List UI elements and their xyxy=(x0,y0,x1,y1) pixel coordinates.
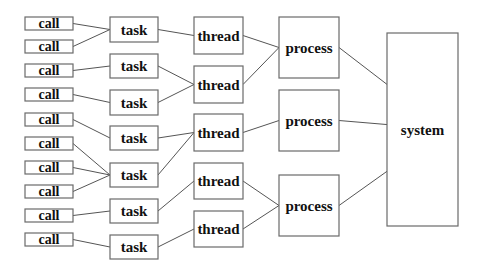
edge-t6-th4 xyxy=(158,181,194,211)
edge-c7-t5 xyxy=(73,168,110,176)
process-node: process xyxy=(279,90,339,151)
task-label: task xyxy=(121,58,148,74)
edge-c9-t6 xyxy=(73,211,110,216)
call-label: call xyxy=(39,39,60,54)
thread-label: thread xyxy=(197,125,240,141)
call-node: call xyxy=(25,232,73,247)
call-label: call xyxy=(39,63,60,78)
edge-c10-t7 xyxy=(73,240,110,248)
edge-c3-t2 xyxy=(73,66,110,71)
task-label: task xyxy=(121,22,148,38)
edge-th3-p2 xyxy=(243,121,279,133)
call-label: call xyxy=(39,87,60,102)
edge-c4-t3 xyxy=(73,95,110,103)
thread-label: thread xyxy=(197,28,240,44)
edge-c5-t4 xyxy=(73,120,110,139)
nodes-layer: callcallcallcallcallcallcallcallcallcall… xyxy=(25,16,458,259)
edge-c2-t1 xyxy=(73,30,110,47)
task-node: task xyxy=(110,90,158,115)
call-label: call xyxy=(39,184,60,199)
process-node: process xyxy=(279,175,339,236)
system-label: system xyxy=(401,122,445,138)
call-label: call xyxy=(39,136,60,151)
task-label: task xyxy=(121,239,148,255)
task-node: task xyxy=(110,54,158,78)
call-node: call xyxy=(25,16,73,31)
edge-th5-p3 xyxy=(243,206,279,230)
edge-t1-th1 xyxy=(158,30,194,36)
process-node: process xyxy=(279,17,339,78)
task-label: task xyxy=(121,95,148,111)
edge-c6-t5 xyxy=(73,144,110,176)
call-label: call xyxy=(39,160,60,175)
call-node: call xyxy=(25,112,73,127)
call-label: call xyxy=(39,208,60,223)
edge-c1-t1 xyxy=(73,24,110,30)
edge-th1-p1 xyxy=(243,36,279,48)
edge-th2-p1 xyxy=(243,48,279,85)
call-node: call xyxy=(25,208,73,223)
call-node: call xyxy=(25,63,73,78)
thread-node: thread xyxy=(194,66,243,103)
call-node: call xyxy=(25,39,73,54)
call-label: call xyxy=(39,112,60,127)
task-node: task xyxy=(110,126,158,150)
edge-t5-th3 xyxy=(158,133,194,176)
thread-node: thread xyxy=(194,163,243,199)
task-label: task xyxy=(121,130,148,146)
call-label: call xyxy=(39,16,60,31)
thread-label: thread xyxy=(197,77,240,93)
edge-p1-s1 xyxy=(339,48,387,85)
edge-t7-th5 xyxy=(158,229,194,247)
process-label: process xyxy=(285,198,332,214)
call-node: call xyxy=(25,160,73,175)
task-node: task xyxy=(110,199,158,223)
edge-c8-t5 xyxy=(73,175,110,192)
call-node: call xyxy=(25,136,73,151)
task-node: task xyxy=(110,163,158,187)
call-node: call xyxy=(25,184,73,199)
task-node: task xyxy=(110,235,158,259)
thread-node: thread xyxy=(194,114,243,151)
task-node: task xyxy=(110,17,158,42)
thread-label: thread xyxy=(197,221,240,237)
edge-t2-th2 xyxy=(158,66,194,85)
call-node: call xyxy=(25,87,73,102)
call-label: call xyxy=(39,232,60,247)
edge-t4-th3 xyxy=(158,133,194,139)
task-label: task xyxy=(121,167,148,183)
task-label: task xyxy=(121,203,148,219)
system-node: system xyxy=(387,33,458,226)
edge-p3-s1 xyxy=(339,171,387,205)
thread-node: thread xyxy=(194,211,243,247)
hierarchy-diagram: callcallcallcallcallcallcallcallcallcall… xyxy=(0,0,479,273)
thread-node: thread xyxy=(194,17,243,54)
edge-p2-s1 xyxy=(339,121,387,125)
thread-label: thread xyxy=(197,173,240,189)
process-label: process xyxy=(285,40,332,56)
process-label: process xyxy=(285,113,332,129)
edge-th4-p3 xyxy=(243,181,279,206)
edge-t3-th2 xyxy=(158,85,194,103)
